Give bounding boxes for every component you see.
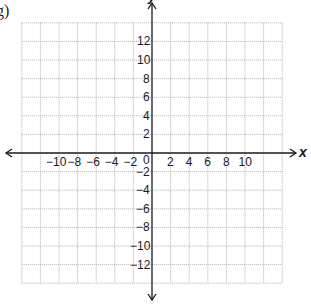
x-tick-label: −6 bbox=[86, 156, 100, 168]
x-tick-label: −10 bbox=[46, 156, 66, 168]
y-tick-label: −2 bbox=[136, 166, 150, 178]
y-tick-label: 6 bbox=[143, 91, 150, 103]
y-tick-label: 12 bbox=[137, 35, 150, 47]
grid bbox=[0, 0, 311, 305]
x-tick-label: −4 bbox=[105, 156, 119, 168]
y-tick-label: 8 bbox=[143, 73, 150, 85]
x-tick-label: 8 bbox=[223, 156, 230, 168]
y-tick-label: −6 bbox=[136, 203, 150, 215]
part-label: g) bbox=[0, 2, 9, 20]
x-tick-label: 4 bbox=[186, 156, 193, 168]
y-tick-label: 4 bbox=[143, 110, 150, 122]
axes bbox=[6, 3, 296, 300]
y-tick-label: −10 bbox=[130, 240, 150, 252]
y-tick-label: 10 bbox=[137, 54, 150, 66]
y-tick-label: −12 bbox=[130, 259, 150, 271]
x-tick-label: 2 bbox=[167, 156, 174, 168]
y-tick-label: 2 bbox=[143, 128, 150, 140]
x-tick-label: −8 bbox=[68, 156, 82, 168]
y-tick-label: −4 bbox=[136, 184, 150, 196]
y-axis-label: y bbox=[148, 0, 156, 4]
y-tick-label: −8 bbox=[136, 221, 150, 233]
x-axis-label: x bbox=[299, 144, 307, 160]
coordinate-plane: g) x y 0246810−2−4−6−8−1024681012−2−4−6−… bbox=[0, 0, 311, 305]
x-tick-label: 10 bbox=[239, 156, 252, 168]
x-tick-label: 6 bbox=[204, 156, 211, 168]
